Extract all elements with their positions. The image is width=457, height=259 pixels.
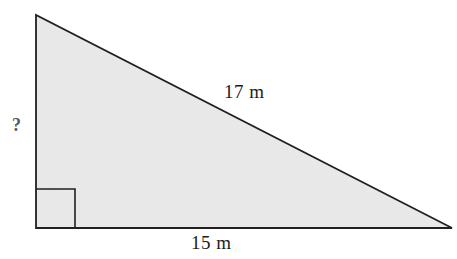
triangle-svg <box>0 0 457 259</box>
base-length-label: 15 m <box>191 233 232 252</box>
right-triangle-figure: 17 m 15 m ? <box>0 0 457 259</box>
hypotenuse-length-label: 17 m <box>224 82 265 101</box>
unknown-side-label: ? <box>12 116 21 134</box>
